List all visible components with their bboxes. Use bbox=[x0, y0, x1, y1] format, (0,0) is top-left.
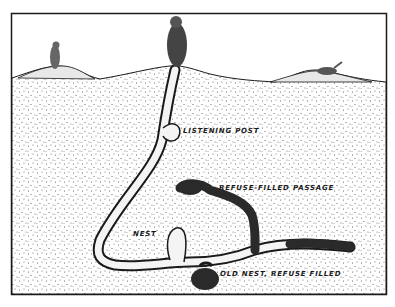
listening-post bbox=[163, 124, 180, 141]
label-listening-post: LISTENING POST bbox=[183, 127, 259, 135]
refuse-passage-end bbox=[178, 181, 202, 195]
label-refuse-filled-passage: REFUSE-FILLED PASSAGE bbox=[219, 184, 334, 192]
refuse-tunnel-right bbox=[290, 243, 350, 247]
burrow-illustration: LISTENING POST REFUSE-FILLED PASSAGE NES… bbox=[0, 0, 395, 307]
burrow-cross-section bbox=[0, 0, 395, 307]
nest-chamber bbox=[168, 228, 186, 262]
label-nest: NEST bbox=[133, 230, 157, 238]
label-old-nest: OLD NEST, REFUSE FILLED bbox=[220, 270, 341, 278]
old-nest-chamber bbox=[191, 268, 219, 290]
